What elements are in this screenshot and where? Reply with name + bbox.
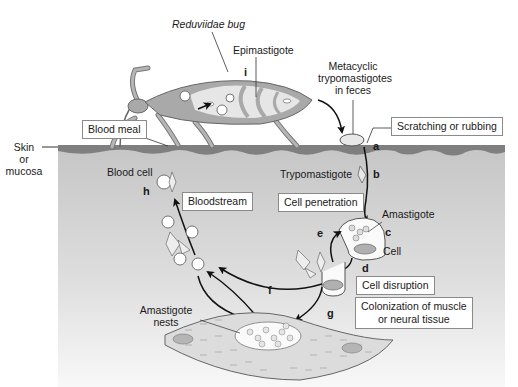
- box-cell-disruption: Cell disruption: [356, 276, 435, 295]
- label-trypomastigote: Trypomastigote: [280, 168, 352, 180]
- label-epimastigote: Epimastigote: [233, 44, 294, 56]
- disrupted-cell-nucleus: [323, 280, 343, 290]
- cell-nucleus: [354, 244, 376, 254]
- label-skin-or-mucosa: Skin or mucosa: [4, 141, 44, 177]
- box-blood-meal: Blood meal: [82, 120, 147, 139]
- label-amastigote-nests-line2: nests: [132, 316, 200, 328]
- step-i: i: [244, 66, 247, 78]
- label-cell: Cell: [383, 245, 401, 257]
- label-metacyclic-line3: in feces: [318, 84, 388, 96]
- step-d: d: [362, 262, 369, 274]
- box-colonization-line1: Colonization of muscle: [361, 300, 467, 313]
- label-reduviidae-bug: Reduviidae bug: [172, 18, 245, 30]
- step-c: c: [385, 226, 391, 238]
- label-blood-cell: Blood cell: [107, 166, 153, 178]
- label-amastigote-nests: Amastigote nests: [132, 304, 200, 328]
- bug-leader-line: [212, 32, 228, 72]
- step-a: a: [373, 140, 379, 152]
- label-skin-line3: mucosa: [4, 165, 44, 177]
- step-g: g: [327, 307, 334, 319]
- box-bloodstream: Bloodstream: [182, 192, 253, 211]
- feces-arrow: [318, 100, 342, 132]
- label-metacyclic: Metacyclic trypomastigotes in feces: [318, 60, 388, 96]
- step-f: f: [268, 284, 272, 296]
- label-metacyclic-line1: Metacyclic: [318, 60, 388, 72]
- label-amastigote: Amastigote: [382, 208, 435, 220]
- label-skin-line1: Skin: [4, 141, 44, 153]
- label-skin-line2: or: [4, 153, 44, 165]
- feces-droplet: [340, 134, 364, 146]
- label-metacyclic-line2: trypomastigotes: [318, 72, 388, 84]
- box-colonization-line2: or neural tissue: [361, 313, 467, 326]
- step-b: b: [373, 168, 380, 180]
- box-cell-penetration: Cell penetration: [278, 193, 364, 212]
- box-colonization: Colonization of muscle or neural tissue: [355, 297, 473, 329]
- step-e: e: [317, 227, 323, 239]
- label-amastigote-nests-line1: Amastigote: [132, 304, 200, 316]
- step-h: h: [143, 185, 150, 197]
- box-scratching-or-rubbing: Scratching or rubbing: [391, 117, 503, 136]
